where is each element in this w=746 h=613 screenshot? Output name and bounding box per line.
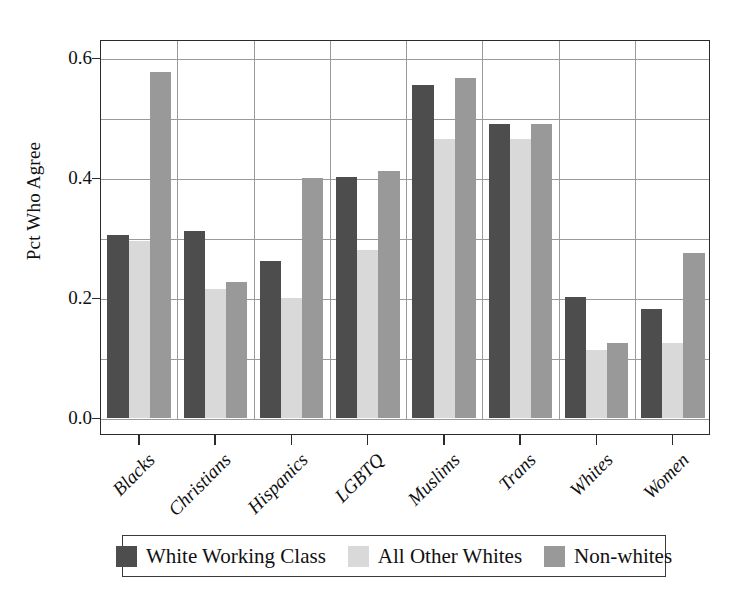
x-axis-tick-label: Whites — [565, 449, 617, 501]
bar-chart-figure: Pct Who Agree 0.00.20.40.6 BlacksChristi… — [0, 0, 746, 613]
legend-swatch-icon — [348, 546, 369, 567]
gridline — [101, 419, 709, 420]
bar — [683, 253, 704, 419]
bar — [489, 124, 510, 418]
bar — [607, 343, 628, 419]
legend-entry[interactable]: White Working Class — [105, 544, 337, 569]
legend-label: All Other Whites — [378, 544, 522, 569]
y-axis-tick-label: 0.4 — [32, 167, 92, 189]
bar — [641, 309, 662, 418]
bar — [150, 72, 171, 419]
bar — [205, 289, 226, 418]
x-axis-tick-label: Christians — [164, 449, 236, 521]
plot-area — [100, 40, 710, 435]
x-axis-tick-mark — [519, 435, 520, 445]
bar — [455, 78, 476, 419]
bar — [281, 298, 302, 418]
vertical-gridline — [559, 41, 560, 419]
gridline — [101, 59, 709, 60]
x-axis-tick-label: Hispanics — [243, 449, 312, 518]
x-axis-tick-mark — [443, 435, 444, 445]
gridline — [101, 179, 709, 180]
x-axis-tick-mark — [138, 435, 139, 445]
bar — [302, 178, 323, 418]
bar — [336, 177, 357, 418]
bar — [412, 85, 433, 419]
bar — [357, 250, 378, 419]
bar — [531, 124, 552, 418]
x-axis-tick-label: Women — [639, 449, 694, 504]
legend-label: Non-whites — [574, 544, 672, 569]
x-axis-tick-label: Trans — [495, 449, 541, 495]
x-axis-tick-label: Blacks — [108, 449, 159, 500]
legend-entry[interactable]: Non-whites — [533, 544, 683, 569]
gridline — [101, 119, 709, 120]
vertical-gridline — [482, 41, 483, 419]
bar — [434, 139, 455, 419]
bar — [129, 241, 150, 418]
bar — [226, 282, 247, 419]
x-axis-tick-label: Muslims — [404, 449, 465, 510]
chart-legend: White Working ClassAll Other WhitesNon-w… — [122, 535, 666, 577]
bar — [662, 343, 683, 419]
vertical-gridline — [406, 41, 407, 419]
x-axis-tick-mark — [291, 435, 292, 445]
bar — [565, 297, 586, 418]
legend-swatch-icon — [116, 546, 137, 567]
bar — [586, 350, 607, 418]
y-axis-tick-label: 0.0 — [32, 407, 92, 429]
y-axis-tick-label: 0.2 — [32, 287, 92, 309]
bar — [184, 231, 205, 418]
x-axis-tick-mark — [214, 435, 215, 445]
y-axis-tick-label: 0.6 — [32, 47, 92, 69]
vertical-gridline — [177, 41, 178, 419]
legend-entry[interactable]: All Other Whites — [337, 544, 533, 569]
bar — [107, 235, 128, 418]
bar — [378, 171, 399, 418]
vertical-gridline — [330, 41, 331, 419]
y-axis-label: Pct Who Agree — [23, 101, 45, 301]
bar — [510, 139, 531, 419]
bar — [260, 261, 281, 418]
x-axis-tick-mark — [596, 435, 597, 445]
x-axis-tick-label: LGBTQ — [330, 449, 388, 507]
legend-label: White Working Class — [146, 544, 326, 569]
vertical-gridline — [254, 41, 255, 419]
vertical-gridline — [635, 41, 636, 419]
legend-swatch-icon — [544, 546, 565, 567]
x-axis-tick-mark — [672, 435, 673, 445]
x-axis-tick-mark — [367, 435, 368, 445]
